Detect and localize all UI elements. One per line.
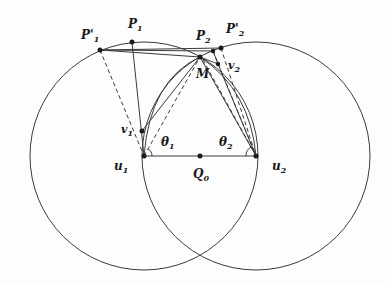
label-sub: 1 xyxy=(123,165,129,175)
point-P2p xyxy=(219,46,224,51)
label-theta2: θ2 xyxy=(219,136,233,148)
label-text: u xyxy=(114,159,123,173)
label-v2: v2 xyxy=(228,60,240,71)
label-text: M xyxy=(196,67,209,81)
label-v1: v1 xyxy=(121,124,133,135)
label-P1-prime: P'1 xyxy=(81,29,99,41)
segment-P1-u1 xyxy=(132,42,144,156)
point-v2 xyxy=(216,62,220,66)
point-Q0 xyxy=(198,154,203,159)
dashed-P1p-u1 xyxy=(100,50,144,156)
label-text: u xyxy=(272,159,281,173)
label-M: M xyxy=(196,68,209,80)
label-sub: 2 xyxy=(234,64,240,74)
label-text: Q xyxy=(193,167,203,181)
diagram-canvas: P'1 P1 P2 P'2 M v1 v2 θ1 θ2 u1 u2 Q0 xyxy=(0,0,391,284)
label-text: P xyxy=(128,17,137,31)
point-P1p xyxy=(98,48,103,53)
label-P2-prime: P'2 xyxy=(226,23,244,35)
angle-theta2-arc xyxy=(246,147,251,156)
label-u2: u2 xyxy=(272,160,286,172)
label-u1: u1 xyxy=(114,160,128,172)
point-J xyxy=(211,49,215,53)
point-P1 xyxy=(130,40,135,45)
point-v1 xyxy=(140,129,145,134)
angle-theta1-arc xyxy=(148,149,152,156)
label-text: P' xyxy=(226,22,239,36)
point-u1 xyxy=(142,154,147,159)
chord-P1p-P2p xyxy=(100,48,221,50)
label-sub: 2 xyxy=(239,28,245,38)
label-sub: 0 xyxy=(203,173,209,183)
label-sub: 1 xyxy=(137,23,143,33)
label-P2: P2 xyxy=(196,30,211,42)
label-text: P xyxy=(196,29,205,43)
label-sub: 2 xyxy=(205,35,211,45)
label-text: θ xyxy=(161,135,169,149)
label-theta1: θ1 xyxy=(161,136,175,148)
point-u2 xyxy=(254,154,259,159)
label-sub: 2 xyxy=(227,141,233,151)
label-sub: 1 xyxy=(127,128,133,138)
label-sub: 1 xyxy=(94,34,100,44)
point-P2 xyxy=(198,55,203,60)
label-P1: P1 xyxy=(128,18,143,30)
segment-v1-P2 xyxy=(142,57,200,131)
label-sub: 2 xyxy=(281,165,287,175)
label-Q0: Q0 xyxy=(193,168,209,180)
label-text: θ xyxy=(219,135,227,149)
label-sub: 1 xyxy=(169,141,175,151)
label-text: P' xyxy=(81,28,94,42)
